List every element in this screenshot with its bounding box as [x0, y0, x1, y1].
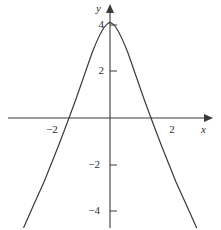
y-tick-label-minus-4: −4 — [74, 205, 100, 216]
x-tick-label-minus-2: −2 — [42, 124, 62, 135]
y-tick-label-2: 2 — [78, 65, 104, 76]
parabola-figure: y x 4 2 −2 −4 −2 2 — [0, 0, 221, 230]
plot-canvas — [0, 0, 221, 230]
y-tick-label-4: 4 — [78, 19, 104, 30]
x-tick-label-2: 2 — [162, 124, 182, 135]
y-axis-label: y — [96, 3, 101, 14]
y-axis — [106, 4, 114, 228]
y-tick-label-minus-2: −2 — [74, 159, 100, 170]
x-axis-label: x — [201, 124, 206, 135]
